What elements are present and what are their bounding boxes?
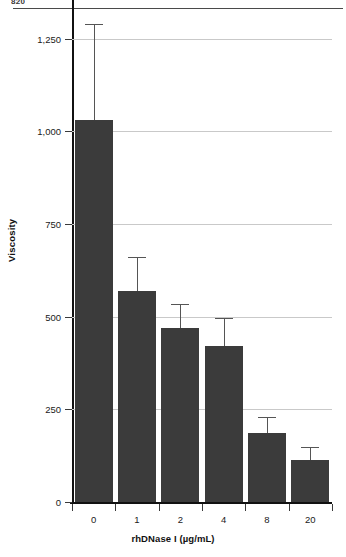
x-tick [72, 504, 73, 511]
x-tick [115, 504, 116, 511]
y-tick [65, 409, 72, 410]
error-bar-cap [128, 257, 146, 258]
y-axis-title: Viscosity [6, 219, 17, 262]
error-bar-cap [301, 447, 319, 448]
x-tick-label: 20 [305, 514, 316, 525]
error-bar-cap [258, 417, 276, 418]
bar-chart-figure: Viscosity 02505007501,0001,250 0124820 r… [0, 0, 346, 557]
error-bar-cap [215, 318, 233, 319]
error-bar-stem [94, 24, 95, 120]
x-tick [159, 504, 160, 511]
x-tick-label: 1 [134, 514, 139, 525]
error-bar-cap [85, 24, 103, 25]
y-tick-label: 250 [45, 404, 61, 415]
x-tick [332, 504, 333, 511]
bar [205, 346, 243, 502]
x-tick-label: 2 [178, 514, 183, 525]
y-tick [65, 502, 72, 503]
x-tick [245, 504, 246, 511]
plot-area: 02505007501,0001,250 0124820 [72, 20, 332, 502]
error-bar-stem [267, 417, 268, 433]
y-tick [65, 224, 72, 225]
error-bar-stem [224, 318, 225, 346]
y-tick-label: 750 [45, 218, 61, 229]
x-tick-label: 8 [264, 514, 269, 525]
y-tick [65, 317, 72, 318]
x-axis-title: rhDNase I (µg/mL) [0, 533, 346, 544]
y-tick-label: 1,000 [37, 126, 61, 137]
bar [248, 433, 286, 502]
y-tick [65, 39, 72, 40]
bar [291, 460, 329, 502]
x-tick-label: 0 [91, 514, 96, 525]
error-bar-stem [180, 304, 181, 328]
y-tick [65, 131, 72, 132]
bar [118, 291, 156, 502]
error-bar-cap [171, 304, 189, 305]
x-axis-ticks: 0124820 [72, 504, 332, 534]
error-bar-stem [137, 257, 138, 290]
gridline [72, 39, 332, 40]
bar [161, 328, 199, 502]
x-tick-label: 4 [221, 514, 226, 525]
y-tick-label: 1,250 [37, 33, 61, 44]
error-bar-stem [310, 447, 311, 460]
x-tick [289, 504, 290, 511]
y-tick-label: 500 [45, 311, 61, 322]
x-tick [202, 504, 203, 511]
bar [75, 120, 113, 502]
y-tick-label: 0 [56, 497, 61, 508]
